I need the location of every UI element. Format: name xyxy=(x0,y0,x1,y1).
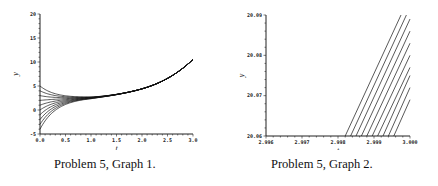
graph-2-chart: 2.9962.9972.9982.9993.00020.0620.0720.08… xyxy=(0,0,438,150)
graph-2-x-tick-label: 3.000 xyxy=(402,139,417,145)
graph-2-x-axis-label: t xyxy=(337,146,340,150)
graph-2-y-tick-label: 20.07 xyxy=(247,92,262,98)
solution-curve xyxy=(351,15,407,136)
graph-2-x-tick-label: 2.998 xyxy=(330,139,345,145)
solution-curve xyxy=(372,55,410,136)
graph-2-x-tick-label: 2.996 xyxy=(258,139,273,145)
graph-2-y-tick-label: 20.06 xyxy=(247,133,262,139)
graph-2-y-tick-label: 20.09 xyxy=(247,12,262,18)
graph-2-y-tick-label: 20.08 xyxy=(247,52,262,58)
graph-2-y-axis-label: y xyxy=(237,73,246,78)
graph-2-curves xyxy=(345,15,410,136)
graph-2-x-tick-label: 2.999 xyxy=(366,139,381,145)
solution-curve xyxy=(345,15,401,136)
graph-1-caption: Problem 5, Graph 1. xyxy=(54,157,156,172)
graph-2-x-tick-label: 2.997 xyxy=(294,139,309,145)
graph-2-axes: 2.9962.9972.9982.9993.00020.0620.0720.08… xyxy=(237,12,418,150)
graph-2-caption: Problem 5, Graph 2. xyxy=(271,157,373,172)
